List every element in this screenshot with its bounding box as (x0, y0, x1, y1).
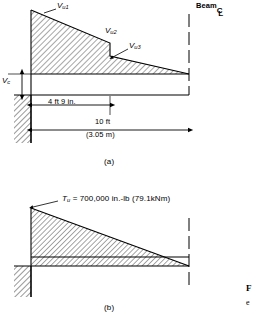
label-vu3: Vu3 (129, 42, 141, 51)
beam-centerline-label: BeamCL (196, 2, 224, 10)
vc-subscript: c (7, 79, 10, 85)
dimension-10ft-metric: (3.05 m) (86, 131, 115, 139)
vu2-subscript: u2 (110, 29, 116, 35)
beam-text: Beam (196, 1, 217, 10)
figure-container: Vu1 Vu2 Vu3 Vc BeamCL 4 ft 9 in. 10 ft (… (0, 0, 264, 322)
vu3-leader (113, 49, 128, 57)
panel-b-support-wall-hatch (14, 266, 31, 297)
tu-leader (33, 201, 58, 207)
vu3-subscript: u3 (134, 44, 140, 50)
panel-b-graphics (14, 201, 189, 297)
tu-value: 700,000 (80, 194, 110, 203)
dimension-10ft-primary: 10 ft (95, 118, 110, 126)
tu-units: in.-lb (112, 194, 130, 203)
torsion-annotation: Tu = 700,000 in.-lb (79.1kNm) (62, 195, 170, 204)
vu1-subscript: u1 (62, 4, 68, 10)
panel-label-b: (b) (104, 304, 114, 312)
label-vc: Vc (2, 77, 10, 86)
caption-fragment-line2: e (246, 299, 250, 307)
panel-label-a: (a) (104, 158, 114, 166)
support-wall-hatch (14, 95, 31, 143)
label-vu1: Vu1 (57, 2, 69, 11)
label-vu2: Vu2 (105, 27, 117, 36)
dimension-4ft9: 4 ft 9 in. (48, 98, 76, 106)
vu1-leader (44, 9, 56, 13)
tu-si-value: (79.1kNm) (132, 194, 170, 203)
caption-fragment-line1: F (246, 284, 252, 293)
